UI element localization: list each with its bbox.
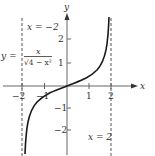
function-lhs: y = (0, 51, 17, 61)
x-tick-label: −2 (12, 91, 25, 101)
y-tick-label: 1 (58, 58, 64, 68)
asymptote-left-label: x = −2 (27, 22, 59, 32)
y-tick-label: 2 (58, 34, 64, 44)
function-denominator: √4 − x² (24, 58, 52, 67)
x-tick-label: 1 (86, 91, 92, 101)
function-numerator: x (36, 47, 41, 56)
x-axis-arrow-icon (131, 84, 138, 89)
asymptote-right-label: x = 2 (88, 132, 112, 142)
x-axis-label: x (140, 81, 145, 91)
y-tick-label: −1 (54, 103, 67, 113)
x-tick-label: 2 (108, 91, 114, 101)
function-graph: −2 −1 1 2 2 1 −1 −2 x y x = −2 x = 2 y =… (0, 0, 155, 156)
x-tick-label: −1 (36, 91, 49, 101)
y-tick-label: −2 (54, 125, 67, 135)
function-label: y = x √4 − x² (0, 47, 52, 67)
y-axis-label: y (63, 2, 70, 12)
y-axis-arrow-icon (65, 13, 70, 20)
